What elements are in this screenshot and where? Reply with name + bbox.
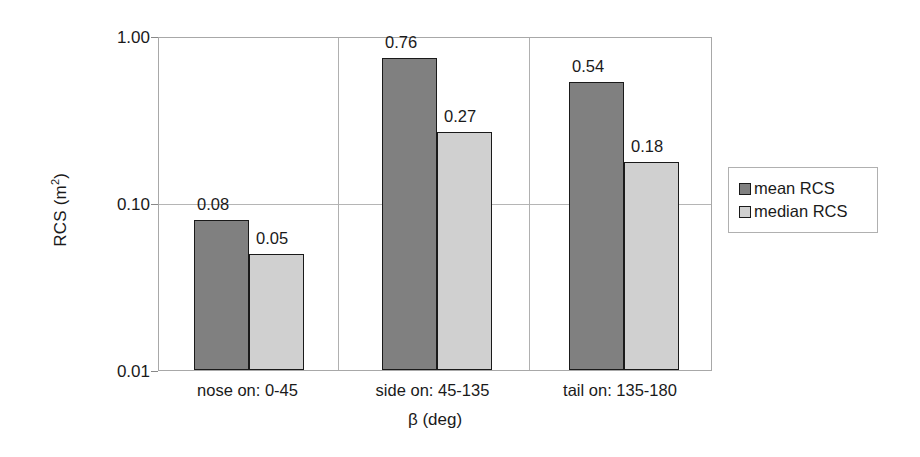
plot-area: 0.08 0.05 0.76 0.27 0.54 0.18 xyxy=(158,37,712,371)
legend-label-mean-rcs: mean RCS xyxy=(754,180,835,197)
category-separator-2 xyxy=(529,38,530,370)
legend-label-median-rcs: median RCS xyxy=(754,203,848,220)
y-tick-label-1.00: 1.00 xyxy=(92,29,150,46)
rcs-bar-chart-figure: RCS (m2) 1.00 0.10 0.01 0.08 0.05 0.76 0… xyxy=(0,0,920,457)
y-tick-label-0.01: 0.01 xyxy=(92,363,150,380)
y-tick-mark-mid xyxy=(151,204,158,205)
x-category-label-tail-on: tail on: 135-180 xyxy=(528,382,712,399)
x-category-label-side-on: side on: 45-135 xyxy=(337,382,528,399)
chart-legend: mean RCS median RCS xyxy=(728,167,878,233)
legend-swatch-icon-median-rcs xyxy=(739,206,751,218)
bar-mean-side-on xyxy=(382,58,437,370)
legend-swatch-icon-mean-rcs xyxy=(739,183,751,195)
y-axis-tick-labels: 1.00 0.10 0.01 xyxy=(92,0,150,457)
y-tick-label-0.10: 0.10 xyxy=(92,196,150,213)
bar-value-label-median-side-on: 0.27 xyxy=(444,108,476,125)
bar-value-label-mean-nose-on: 0.08 xyxy=(197,196,229,213)
bar-median-tail-on xyxy=(624,162,679,370)
bar-median-nose-on xyxy=(249,254,304,370)
x-axis-title: β (deg) xyxy=(158,411,712,428)
category-separator-1 xyxy=(338,38,339,370)
x-category-label-nose-on: nose on: 0-45 xyxy=(158,382,337,399)
bar-value-label-mean-tail-on: 0.54 xyxy=(572,58,604,75)
bar-mean-tail-on xyxy=(569,82,624,370)
bar-value-label-median-tail-on: 0.18 xyxy=(631,138,663,155)
y-axis-title-exponent: 2 xyxy=(49,179,61,185)
legend-item-mean-rcs[interactable]: mean RCS xyxy=(739,177,869,200)
y-tick-mark-bottom xyxy=(151,371,158,372)
bar-value-label-mean-side-on: 0.76 xyxy=(385,34,417,51)
y-axis-title-close: ) xyxy=(51,173,70,179)
bar-median-side-on xyxy=(437,132,492,370)
bar-mean-nose-on xyxy=(194,220,249,370)
legend-item-median-rcs[interactable]: median RCS xyxy=(739,200,869,223)
y-axis-title-base: RCS (m xyxy=(51,185,70,247)
y-axis-title-text: RCS (m2) xyxy=(49,173,71,247)
bar-value-label-median-nose-on: 0.05 xyxy=(256,230,288,247)
y-tick-mark-top xyxy=(151,37,158,38)
